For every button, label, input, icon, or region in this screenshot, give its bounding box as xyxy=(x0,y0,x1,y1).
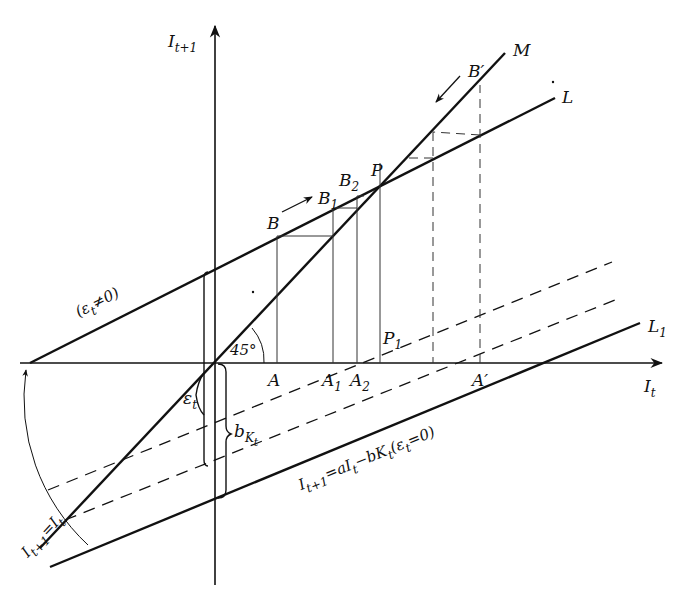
line-M-label: M xyxy=(513,42,530,59)
line-L xyxy=(30,98,555,363)
point-A-prime-label: A′ xyxy=(472,372,488,389)
line-L-label: L xyxy=(562,89,573,106)
y-axis-label: It+1 xyxy=(168,33,197,50)
bk-bracket xyxy=(218,364,231,498)
angle-45-label: 45° xyxy=(230,343,257,358)
point-B1-label: B1 xyxy=(318,190,338,207)
epsilon-t-label: εt xyxy=(183,390,197,407)
x-axis-label: It xyxy=(644,378,656,395)
arrow-diverging xyxy=(436,76,460,102)
bk-label: bKt xyxy=(234,423,258,440)
point-P-label: P xyxy=(371,162,382,179)
point-P1-label: P1 xyxy=(383,330,402,347)
point-B2-label: B2 xyxy=(339,172,359,189)
point-A-label: A xyxy=(268,372,280,389)
epsilon-bracket xyxy=(196,272,208,466)
cobweb-diverging xyxy=(409,85,480,363)
point-A2-label: A2 xyxy=(350,372,370,389)
point-A1-label: A1 xyxy=(322,372,342,389)
point-B-prime-label: B′ xyxy=(468,63,484,80)
line-L1 xyxy=(50,323,640,567)
arrow-converging xyxy=(282,197,312,212)
point-B-label: B xyxy=(267,215,280,232)
line-L1-label: L1 xyxy=(648,318,667,335)
